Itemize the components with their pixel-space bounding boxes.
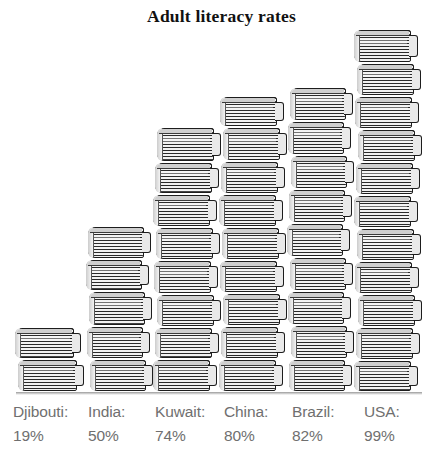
book-cover-edge — [90, 228, 142, 233]
book-cover-edge — [293, 327, 345, 332]
book — [153, 194, 217, 227]
label-group-kuwait: Kuwait:74% — [155, 400, 205, 448]
book-cover-tab — [274, 200, 283, 221]
value-label: 80% — [224, 424, 268, 448]
book — [355, 96, 419, 129]
literacy-book-chart: Adult literacy rates Djibouti:19%India:5… — [0, 0, 443, 452]
book-stack-china — [221, 96, 285, 392]
book-cover-tab — [412, 69, 421, 90]
book-cover-edge — [92, 361, 144, 366]
book — [289, 189, 352, 223]
book-cover-tab — [342, 297, 351, 319]
book-cover-tab — [278, 133, 287, 155]
book-cover-edge — [357, 98, 410, 103]
book-cover-edge — [356, 197, 409, 202]
value-label: 74% — [155, 424, 205, 448]
book — [358, 294, 422, 327]
book — [157, 294, 221, 327]
book — [155, 327, 219, 359]
book-cover-edge — [290, 123, 342, 128]
book-cover-tab — [143, 297, 152, 319]
book-cover-tab — [343, 195, 352, 217]
book — [288, 121, 351, 155]
value-label: 50% — [88, 424, 125, 448]
book — [87, 326, 150, 359]
book-stack-india — [88, 226, 151, 392]
book-cover-edge — [225, 295, 278, 300]
book-cover-edge — [155, 196, 208, 201]
book-cover-tab — [410, 102, 419, 123]
book — [157, 127, 221, 162]
book — [223, 293, 287, 326]
book-cover-tab — [411, 168, 420, 189]
book-cover-tab — [345, 331, 354, 353]
book-cover-tab — [209, 266, 218, 288]
book-cover-edge — [358, 164, 411, 169]
book-cover-edge — [222, 262, 275, 267]
book-cover-edge — [159, 296, 212, 301]
book-cover-tab — [210, 333, 219, 353]
book-stack-brazil — [289, 87, 352, 392]
book — [220, 260, 284, 293]
book-cover-tab — [409, 366, 418, 386]
book-cover-edge — [359, 230, 412, 235]
book — [355, 261, 419, 294]
book-cover-tab — [142, 232, 151, 253]
label-group-djibouti: Djibouti:19% — [13, 400, 68, 448]
book-cover-tab — [341, 229, 350, 251]
book — [287, 223, 350, 257]
book — [220, 96, 284, 127]
book-cover-tab — [277, 233, 286, 254]
book-cover-edge — [89, 328, 141, 333]
book — [291, 325, 354, 359]
book-cover-tab — [411, 333, 420, 354]
book — [15, 327, 81, 359]
book — [89, 291, 152, 326]
baseline-shadow — [16, 392, 422, 395]
book-cover-edge — [293, 157, 345, 162]
book — [358, 129, 422, 162]
book-cover-edge — [357, 263, 410, 268]
book-cover-tab — [75, 365, 84, 386]
book-cover-tab — [345, 161, 354, 183]
book — [357, 228, 421, 261]
book — [289, 359, 352, 392]
book-cover-edge — [159, 129, 212, 134]
book-cover-tab — [140, 265, 149, 285]
book-cover-edge — [360, 296, 413, 301]
book — [290, 87, 353, 121]
book — [222, 227, 286, 260]
book-cover-edge — [292, 259, 344, 264]
book-cover-tab — [409, 35, 418, 57]
book-cover-tab — [409, 201, 418, 222]
book-cover-edge — [88, 261, 140, 266]
book — [155, 162, 219, 194]
book — [354, 29, 418, 63]
book-cover-tab — [344, 93, 353, 115]
book-cover-edge — [223, 328, 276, 333]
book — [88, 226, 151, 259]
book — [356, 327, 420, 360]
book-cover-tab — [144, 365, 153, 386]
book — [290, 257, 353, 291]
book-cover-tab — [412, 234, 421, 255]
book-cover-tab — [413, 300, 422, 321]
country-label: Kuwait: — [155, 400, 205, 424]
book-cover-edge — [358, 329, 411, 334]
book-cover-edge — [290, 293, 342, 298]
book-cover-tab — [343, 365, 352, 386]
book-cover-edge — [225, 129, 278, 134]
book-cover-tab — [274, 365, 283, 386]
country-label: Djibouti: — [13, 400, 68, 424]
book-cover-edge — [156, 262, 209, 267]
book-cover-tab — [344, 263, 353, 285]
book — [219, 194, 283, 227]
book — [86, 259, 149, 291]
book-stack-djibouti — [17, 327, 83, 392]
book-cover-edge — [157, 164, 210, 169]
book-cover-tab — [410, 267, 419, 288]
book — [288, 291, 351, 325]
label-group-china: China:80% — [224, 400, 268, 448]
book-cover-tab — [342, 127, 351, 149]
book-cover-tab — [275, 102, 284, 122]
